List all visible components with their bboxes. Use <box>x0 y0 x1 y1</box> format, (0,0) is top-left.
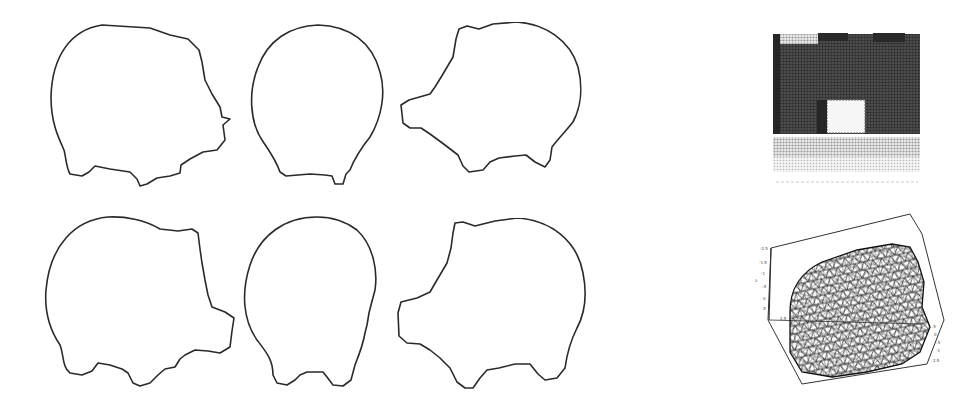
pig-side-left-outline-icon <box>395 22 595 192</box>
triangulated-mesh-icon: -2.5 -1.5 -1 z -.5 0 .5 2.5 .5 0 -.5 -1 … <box>752 212 952 392</box>
tick-label: 0 <box>763 296 766 301</box>
silhouette-r2-front <box>235 215 390 395</box>
tick-label: -2.5 <box>760 246 768 251</box>
tick-label: 2.5 <box>780 316 787 321</box>
silhouette-r1-side-right <box>40 22 240 192</box>
photo-image-icon <box>773 30 923 190</box>
pig-side-right-outline-icon <box>40 215 240 395</box>
silhouette-r2-side-left <box>395 218 600 398</box>
axis-label: z <box>755 278 757 283</box>
pig-front-outline-icon <box>235 215 390 395</box>
white-patch <box>827 100 865 133</box>
tick-label: -.5 <box>761 284 767 289</box>
silhouette-r2-side-right <box>40 215 240 395</box>
silhouette-r1-front <box>240 22 390 192</box>
tick-label: -1 <box>761 271 765 276</box>
pig-side-left-outline-icon <box>395 218 600 398</box>
halftone-photo <box>773 30 923 190</box>
tick-label: 0 <box>934 332 937 337</box>
mesh-3d-plot: -2.5 -1.5 -1 z -.5 0 .5 2.5 .5 0 -.5 -1 … <box>752 212 952 392</box>
silhouette-r1-side-left <box>395 22 595 192</box>
tick-label: .5 <box>762 306 766 311</box>
tick-label: 2.5 <box>933 358 940 363</box>
pig-side-right-outline-icon <box>40 22 240 192</box>
tick-label: -1.5 <box>759 260 767 265</box>
tick-label: .5 <box>932 324 936 329</box>
pig-front-outline-icon <box>240 22 390 192</box>
tick-label: -1 <box>936 348 940 353</box>
tick-label: -.5 <box>935 340 941 345</box>
